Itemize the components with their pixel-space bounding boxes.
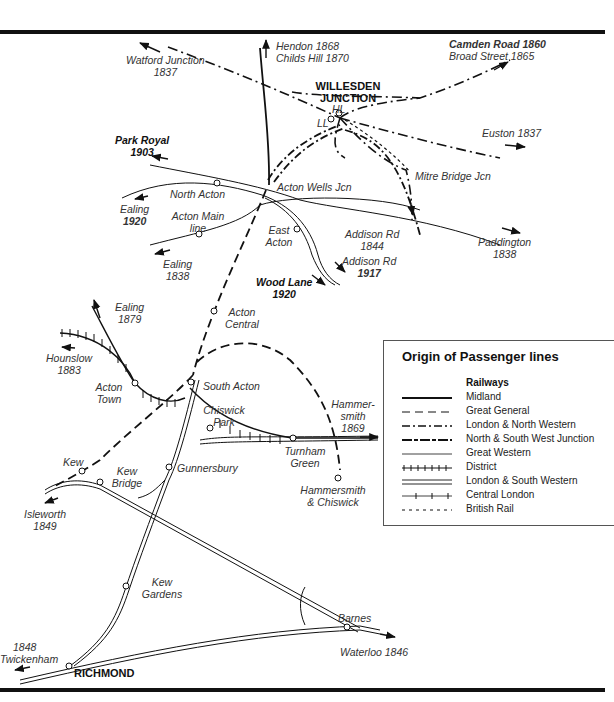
twickenham-year: 1848 [13, 641, 36, 653]
double-line-icon [402, 477, 454, 487]
nswj-line [268, 125, 420, 235]
wood-lane-year: 1920 [273, 288, 296, 300]
euston-label: Euston 1837 [482, 127, 541, 139]
legend-label: Great Western [466, 447, 531, 458]
twickenham-label: 1848Twickenham [0, 641, 58, 665]
ealing-1920-year: 1920 [123, 215, 146, 227]
acton-central-label: Acton Central [222, 306, 262, 330]
park-royal-year: 1903 [130, 146, 153, 158]
wood-lane-name: Wood Lane [256, 276, 312, 288]
legend-label: North & South West Junction [466, 433, 594, 444]
legend-label: London & South Western [466, 475, 578, 486]
legend-label: District [466, 461, 497, 472]
legend-label: Great General [466, 405, 529, 416]
isleworth-name: Isleworth [24, 508, 66, 520]
east-acton-label: East Acton [264, 224, 294, 248]
turnham-green-label: Turnham Green [280, 445, 330, 469]
long-dash-line-icon [402, 407, 454, 417]
legend-row-nswj: North & South West Junction [384, 433, 614, 447]
waterloo-label: Waterloo 1846 [340, 646, 408, 658]
legend-label: London & North Western [466, 419, 576, 430]
midland-line [260, 48, 269, 185]
kew-label: Kew [63, 456, 83, 468]
ealing-1879-name: Ealing [115, 301, 144, 313]
legend-row-district: District [384, 461, 614, 475]
dash-dot-line-icon [402, 421, 454, 431]
hammersmith-1869-label: Hammer-smith1869 [328, 398, 378, 434]
legend-label: Central London [466, 489, 534, 500]
camden-road-text: Camden Road 1860 [449, 38, 546, 50]
legend-row-midland: Midland [384, 391, 614, 405]
hammersmith-name: Hammer-smith [331, 398, 375, 422]
legend-row-central-london: Central London [384, 489, 614, 503]
hounslow-year: 1883 [57, 364, 80, 376]
hounslow-label: Hounslow1883 [46, 352, 92, 376]
legend-label: Midland [466, 391, 501, 402]
sparse-ticked-line-icon [402, 491, 454, 501]
hendon-label: Hendon 1868Childs Hill 1870 [276, 40, 349, 64]
addison-1844-name: Addison Rd [345, 228, 399, 240]
ealing-1838-label: Ealing1838 [163, 258, 192, 282]
addison-1844-label: Addison Rd1844 [345, 228, 399, 252]
heavy-dash-dot-line-icon [402, 435, 454, 445]
ealing-1920-name: Ealing [120, 203, 149, 215]
willesden-junction-label: WILLESDEN JUNCTION [303, 80, 393, 104]
ll-label: LL [317, 117, 329, 129]
lswr-line [20, 380, 380, 684]
park-royal-label: Park Royal1903 [115, 134, 169, 158]
ealing-1879-label: Ealing1879 [115, 301, 144, 325]
paddington-year: 1838 [493, 248, 516, 260]
isleworth-label: Isleworth1849 [24, 508, 66, 532]
ealing-1920-label: Ealing1920 [120, 203, 149, 227]
addison-1917-label: Addison Rd1917 [342, 255, 396, 279]
twickenham-name: Twickenham [0, 653, 58, 665]
acton-main-line-label: Acton Main line [168, 210, 228, 234]
chiswick-park-label: Chiswick Park [202, 404, 246, 428]
acton-wells-label: Acton Wells Jcn [277, 181, 352, 193]
wood-lane-label: Wood Lane1920 [256, 276, 312, 300]
ealing-1838-year: 1838 [166, 270, 189, 282]
legend-row-lswr: London & South Western [384, 475, 614, 489]
hl-label: HL [332, 103, 345, 115]
mitre-bridge-label: Mitre Bridge Jcn [415, 170, 491, 182]
watford-year: 1837 [154, 66, 177, 78]
watford-name: Watford Junction [126, 54, 205, 66]
hendon-text: Hendon 1868 [276, 40, 339, 52]
paddington-name: Paddington [478, 236, 531, 248]
gunnersbury-label: Gunnersbury [177, 462, 238, 474]
addison-1917-year: 1917 [357, 267, 380, 279]
legend-row-british-rail: British Rail [384, 503, 614, 517]
legend-box: Origin of Passenger lines Railways Midla… [383, 340, 614, 526]
north-acton-label: North Acton [170, 188, 225, 200]
isleworth-year: 1849 [33, 520, 56, 532]
broad-street-text: Broad Street 1865 [449, 50, 534, 62]
hammersmith-chiswick-label: Hammersmith & Chiswick [298, 484, 368, 508]
camden-label: Camden Road 1860Broad Street 1865 [449, 38, 546, 62]
addison-1844-year: 1844 [360, 240, 383, 252]
legend-subtitle: Railways [466, 377, 509, 388]
paddington-label: Paddington1838 [478, 236, 531, 260]
legend-row-great-western: Great Western [384, 447, 614, 461]
acton-town-label: Acton Town [92, 381, 126, 405]
kew-gardens-label: Kew Gardens [140, 576, 184, 600]
park-royal-name: Park Royal [115, 134, 169, 146]
childs-hill-text: Childs Hill 1870 [276, 52, 349, 64]
ealing-1838-name: Ealing [163, 258, 192, 270]
south-acton-label: South Acton [203, 380, 260, 392]
legend-row-great-general: Great General [384, 405, 614, 419]
ticked-line-icon [402, 463, 454, 473]
addison-1917-name: Addison Rd [342, 255, 396, 267]
thin-solid-line-icon [402, 449, 454, 459]
ealing-1879-year: 1879 [118, 313, 141, 325]
legend-title: Origin of Passenger lines [402, 349, 559, 364]
hounslow-name: Hounslow [46, 352, 92, 364]
barnes-label: Barnes [338, 612, 371, 624]
thick-solid-line-icon [402, 393, 454, 403]
richmond-label: RICHMOND [74, 667, 135, 679]
legend-row-lnwr: London & North Western [384, 419, 614, 433]
kew-bridge-label: Kew Bridge [110, 465, 144, 489]
legend-label: British Rail [466, 503, 514, 514]
hammersmith-year: 1869 [341, 422, 364, 434]
watford-label: Watford Junction1837 [126, 54, 205, 78]
short-dash-line-icon [402, 505, 454, 515]
